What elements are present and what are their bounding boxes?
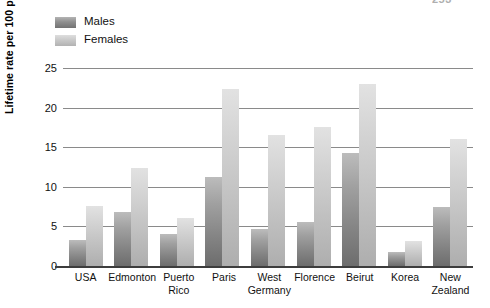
- plot-area: 0510152025: [63, 68, 473, 266]
- x-axis-category-label: PuertoRico: [156, 271, 201, 296]
- bar-group: [200, 68, 246, 266]
- bar-males: [297, 222, 314, 266]
- x-axis-category-label: NewZealand: [428, 271, 473, 296]
- bar-males: [433, 207, 450, 266]
- x-axis-category-label-line: New: [428, 271, 473, 284]
- bar-males: [388, 252, 405, 266]
- bar-group: [63, 68, 109, 266]
- x-axis-category-label-line: Rico: [156, 284, 201, 297]
- y-axis-tick-label: 15: [45, 141, 57, 153]
- x-axis-category-label-line: West: [247, 271, 292, 284]
- bar-group: [291, 68, 337, 266]
- chart-page: 253 Males Females Lifetime rate per 100 …: [0, 0, 490, 308]
- bar-group: [154, 68, 200, 266]
- legend-swatch-males-icon: [55, 17, 76, 28]
- bar-group: [109, 68, 155, 266]
- bar-females: [268, 135, 285, 266]
- x-axis-category-label: WestGermany: [247, 271, 292, 296]
- bar-group: [336, 68, 382, 266]
- bar-group: [382, 68, 428, 266]
- x-axis-category-labels: USAEdmontonPuertoRicoParisWestGermanyFlo…: [63, 271, 473, 296]
- x-axis-category-label-line: Florence: [292, 271, 337, 284]
- bar-males: [342, 153, 359, 266]
- legend-item-males: Males: [55, 14, 128, 30]
- chart-legend: Males Females: [55, 14, 128, 50]
- bar-females: [450, 139, 467, 266]
- bar-females: [177, 218, 194, 266]
- y-axis-tick-label: 20: [45, 102, 57, 114]
- bar-males: [114, 212, 131, 266]
- x-axis-category-label: Paris: [201, 271, 246, 296]
- bar-females: [405, 241, 422, 266]
- bar-group: [428, 68, 474, 266]
- x-axis-category-label-line: Puerto: [156, 271, 201, 284]
- bar-females: [359, 84, 376, 266]
- bar-males: [205, 177, 222, 266]
- x-axis-category-label-line: Germany: [247, 284, 292, 297]
- x-axis-category-label-line: Beirut: [337, 271, 382, 284]
- bar-females: [222, 89, 239, 266]
- x-axis-category-label-line: USA: [63, 271, 108, 284]
- x-axis-line: [55, 266, 473, 268]
- x-axis-category-label-line: Paris: [201, 271, 246, 284]
- bar-males: [160, 234, 177, 266]
- bar-group: [245, 68, 291, 266]
- x-axis-category-label: Edmonton: [108, 271, 156, 296]
- y-axis-tick-label: 10: [45, 181, 57, 193]
- x-axis-category-label: Florence: [292, 271, 337, 296]
- bar-females: [314, 127, 331, 266]
- y-axis-tick-label: 5: [51, 220, 57, 232]
- legend-label-females: Females: [84, 34, 128, 46]
- page-number-artifact: 253: [432, 0, 452, 5]
- y-axis-title: Lifetime rate per 100 people: [3, 0, 15, 114]
- y-axis-tick-label: 25: [45, 62, 57, 74]
- x-axis-category-label: Korea: [382, 271, 427, 296]
- bar-groups: [63, 68, 473, 266]
- x-axis-category-label-line: Korea: [382, 271, 427, 284]
- bar-females: [86, 206, 103, 266]
- x-axis-category-label: USA: [63, 271, 108, 296]
- x-axis-category-label: Beirut: [337, 271, 382, 296]
- bar-females: [131, 168, 148, 266]
- x-axis-category-label-line: Edmonton: [108, 271, 156, 284]
- legend-item-females: Females: [55, 32, 128, 48]
- x-axis-category-label-line: Zealand: [428, 284, 473, 297]
- bar-males: [69, 240, 86, 266]
- legend-label-males: Males: [84, 16, 115, 28]
- legend-swatch-females-icon: [55, 35, 76, 46]
- bar-males: [251, 229, 268, 266]
